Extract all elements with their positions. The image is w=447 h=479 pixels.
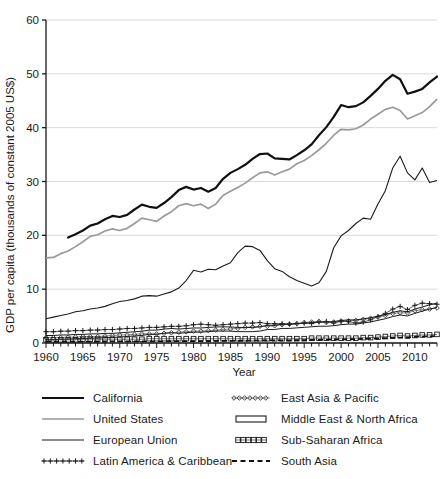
svg-text:1980: 1980	[181, 351, 207, 363]
svg-text:2000: 2000	[328, 351, 354, 363]
legend-label: Sub-Saharan Africa	[281, 434, 383, 446]
svg-text:1965: 1965	[70, 351, 96, 363]
legend-item-middle-east-north-africa: Middle East & North Africa	[228, 413, 418, 425]
legend-label: European Union	[93, 434, 178, 446]
legend-swatch	[40, 455, 86, 467]
legend-item-united-states: United States	[40, 413, 163, 425]
y-axis-title: GDP per capita (thousands of constant 20…	[4, 77, 16, 333]
legend-item-south-asia: South Asia	[228, 455, 337, 467]
legend-item-european-union: European Union	[40, 434, 178, 446]
legend-label: East Asia & Pacific	[281, 392, 379, 404]
svg-text:2010: 2010	[402, 351, 428, 363]
legend-item-california: California	[40, 392, 143, 404]
svg-text:60: 60	[26, 14, 39, 26]
legend-item-latin-america-caribbean: Latin America & Caribbean	[40, 455, 232, 467]
x-axis-title: Year	[232, 366, 255, 378]
svg-text:20: 20	[26, 229, 39, 241]
svg-text:1985: 1985	[218, 351, 244, 363]
chart-figure: 0102030405060 19601965197019751980198519…	[0, 0, 447, 479]
legend-label: Latin America & Caribbean	[93, 455, 232, 467]
chart-legend: CaliforniaUnited StatesEuropean UnionLat…	[0, 386, 447, 479]
svg-text:30: 30	[26, 176, 39, 188]
legend-label: California	[93, 392, 143, 404]
svg-text:0: 0	[33, 337, 39, 349]
legend-swatch	[40, 434, 86, 446]
legend-swatch	[40, 392, 86, 404]
svg-text:50: 50	[26, 68, 39, 80]
legend-swatch	[228, 392, 274, 404]
svg-text:2005: 2005	[365, 351, 391, 363]
legend-label: United States	[93, 413, 163, 425]
svg-text:10: 10	[26, 283, 39, 295]
svg-text:40: 40	[26, 122, 39, 134]
svg-text:1960: 1960	[33, 351, 59, 363]
legend-label: South Asia	[281, 455, 337, 467]
legend-label: Middle East & North Africa	[281, 413, 418, 425]
svg-text:1975: 1975	[144, 351, 170, 363]
svg-text:1995: 1995	[291, 351, 317, 363]
legend-item-east-asia-pacific: East Asia & Pacific	[228, 392, 379, 404]
legend-item-sub-saharan-africa: Sub-Saharan Africa	[228, 434, 383, 446]
legend-swatch	[228, 455, 274, 467]
legend-swatch	[40, 413, 86, 425]
legend-swatch	[228, 413, 274, 425]
line-chart-plot: 0102030405060 19601965197019751980198519…	[0, 0, 447, 390]
legend-swatch	[228, 434, 274, 446]
svg-text:1970: 1970	[107, 351, 133, 363]
svg-text:1990: 1990	[255, 351, 281, 363]
